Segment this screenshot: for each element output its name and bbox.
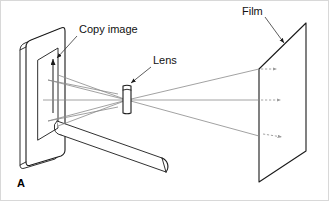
light-rays <box>43 69 259 136</box>
label-film: Film <box>242 5 263 17</box>
label-lens: Lens <box>153 54 177 66</box>
light-tube <box>54 121 168 173</box>
panel-label-a: A <box>17 177 25 189</box>
copy-image-holder <box>20 27 65 168</box>
optical-system-diagram: Copy image Lens Film A <box>1 1 329 201</box>
film-plane <box>259 23 306 182</box>
lens-element <box>123 85 131 114</box>
label-copy-image: Copy image <box>79 23 138 35</box>
figure-panel-a: Copy image Lens Film A <box>0 0 329 201</box>
